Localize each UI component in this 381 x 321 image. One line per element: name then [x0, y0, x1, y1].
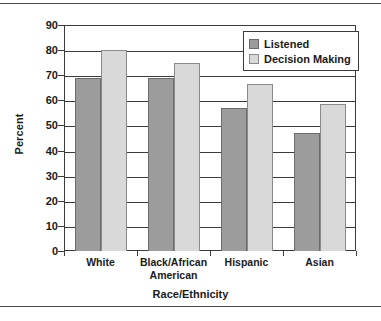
x-axis-category-white: White — [64, 256, 137, 282]
y-axis-tick-mark — [58, 75, 64, 76]
x-axis-category-line: Hispanic — [225, 256, 269, 268]
legend-swatch-icon — [249, 39, 259, 49]
gridline — [65, 126, 355, 127]
gridline — [65, 101, 355, 102]
gridline — [65, 177, 355, 178]
y-axis-tick-mark — [58, 176, 64, 177]
y-axis-tick-mark — [58, 226, 64, 227]
y-axis-tick-label: 10 — [18, 220, 58, 232]
y-axis-tick-label: 30 — [18, 170, 58, 182]
y-axis-tick-label: 50 — [18, 119, 58, 131]
y-axis-tick-label: 80 — [18, 44, 58, 56]
y-axis-tick-label: 60 — [18, 94, 58, 106]
y-axis-tick-mark — [58, 25, 64, 26]
legend-label: Decision Making — [264, 53, 351, 65]
gridline — [65, 76, 355, 77]
x-axis-category-line: Black/African — [140, 256, 207, 268]
bar-chart-figure: Percent 9080706050403020100 WhiteBlack/A… — [0, 0, 381, 321]
x-axis-category-black-african-american: Black/AfricanAmerican — [137, 256, 210, 282]
y-axis-tick-label: 90 — [18, 19, 58, 31]
legend-entry-decision[interactable]: Decision Making — [249, 51, 351, 66]
y-axis-tick-mark — [58, 125, 64, 126]
x-axis-category-labels: WhiteBlack/AfricanAmericanHispanicAsian — [64, 256, 356, 282]
gridline — [65, 152, 355, 153]
x-axis-category-hispanic: Hispanic — [210, 256, 283, 282]
gridline — [65, 227, 355, 228]
x-axis-category-line: Asian — [305, 256, 334, 268]
x-axis-category-line: American — [137, 269, 210, 282]
x-axis-category-asian: Asian — [283, 256, 356, 282]
legend-entry-listened[interactable]: Listened — [249, 36, 351, 51]
figure-top-rule — [0, 3, 381, 4]
x-axis-title: Race/Ethnicity — [0, 288, 381, 300]
y-axis-tick-label: 40 — [18, 145, 58, 157]
y-axis-tick-mark — [58, 201, 64, 202]
chart-legend: ListenedDecision Making — [243, 31, 359, 71]
figure-bottom-rule — [0, 306, 381, 307]
y-axis-tick-mark — [58, 151, 64, 152]
y-axis-tick-label: 0 — [18, 245, 58, 257]
legend-swatch-icon — [249, 54, 259, 64]
y-axis-title: Percent — [13, 99, 25, 169]
gridline — [65, 202, 355, 203]
y-axis-tick-mark — [58, 50, 64, 51]
x-axis-tick-mark — [356, 251, 357, 256]
y-axis-tick-label: 20 — [18, 195, 58, 207]
y-axis-tick-label: 70 — [18, 69, 58, 81]
y-axis-tick-mark — [58, 100, 64, 101]
x-axis-category-line: White — [86, 256, 115, 268]
legend-label: Listened — [264, 38, 309, 50]
